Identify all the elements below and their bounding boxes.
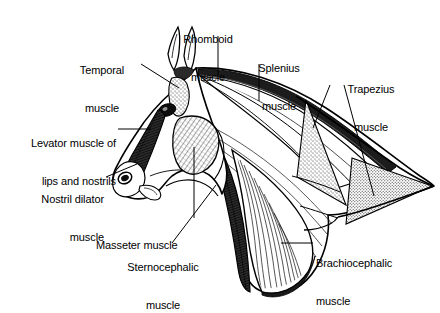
label-levator-line1: Levator muscle of [6, 137, 116, 150]
label-brachiocephalic: Brachiocephalic muscle [316, 232, 420, 313]
label-trapezius-line1: Trapezius [325, 83, 417, 96]
label-nostril-dilator-line2: muscle [10, 231, 104, 244]
label-sternocephalic: Sternocephalic muscle [112, 236, 214, 313]
label-sternocephalic-line2: muscle [112, 299, 214, 312]
label-nostril-dilator-line1: Nostril dilator [10, 193, 104, 206]
label-splenius: Splenius muscle [236, 37, 322, 137]
label-brachiocephalic-line1: Brachiocephalic [316, 257, 420, 270]
label-nostril-dilator: Nostril dilator muscle [10, 168, 104, 268]
label-trapezius: Trapezius muscle [325, 58, 417, 158]
label-splenius-line2: muscle [236, 100, 322, 113]
label-temporal-line1: Temporal [59, 64, 145, 77]
label-sternocephalic-line1: Sternocephalic [112, 261, 214, 274]
label-trapezius-line2: muscle [325, 121, 417, 134]
label-brachiocephalic-line2: muscle [316, 295, 420, 308]
label-splenius-line1: Splenius [236, 62, 322, 75]
